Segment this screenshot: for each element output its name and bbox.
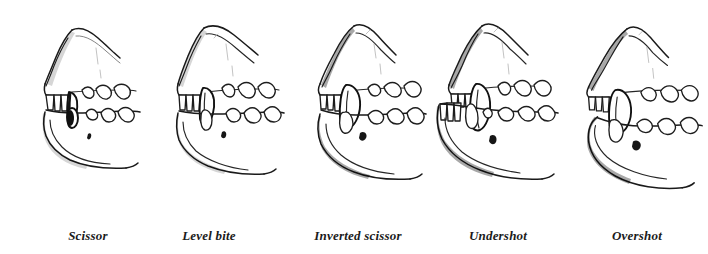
- caption-level-bite: Level bite: [159, 227, 259, 245]
- sketch-hatching-scissor: [96, 44, 114, 78]
- sketch-hatching-level-bite: [214, 34, 233, 76]
- jaw-diagram-inverted-scissor: [288, 0, 438, 200]
- lower-teeth-overshot: [597, 118, 702, 143]
- upper-teeth-scissor: [46, 84, 130, 125]
- caption-overshot: Overshot: [587, 227, 687, 245]
- lower-jaw-outline-inverted-scissor: [318, 114, 422, 179]
- lower-jaw-outline-level-bite: [176, 113, 276, 174]
- caption-scissor: Scissor: [38, 227, 138, 245]
- jaw-diagram-undershot: [420, 0, 570, 200]
- jaw-diagram-overshot: [556, 0, 706, 200]
- jaw-diagram-level-bite: [148, 0, 298, 200]
- sketch-hatching-undershot: [494, 28, 509, 74]
- figure-root: Scissor Level bite Inverted scissor Unde…: [0, 0, 708, 254]
- lower-teeth-undershot: [440, 103, 558, 129]
- caption-inverted-scissor: Inverted scissor: [307, 227, 409, 245]
- muzzle-outline-overshot: [587, 27, 692, 98]
- jaw-diagram-scissor: [10, 0, 160, 200]
- caption-undershot: Undershot: [448, 227, 548, 245]
